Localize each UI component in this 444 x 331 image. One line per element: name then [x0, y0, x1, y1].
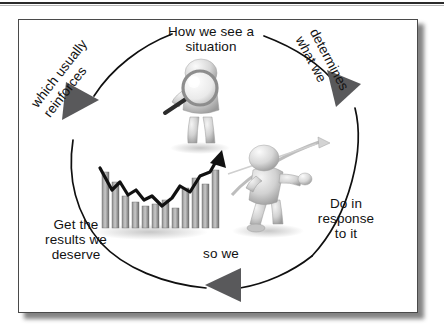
slide-canvas: How we see a situation determines what w…: [0, 0, 444, 331]
magnifier-figure: [165, 59, 230, 154]
bar-6: [152, 204, 159, 228]
bar-5: [142, 206, 149, 228]
magnifier-lens: [183, 71, 217, 105]
archer-figure-shadow: [232, 224, 304, 238]
bar-11: [202, 184, 209, 228]
archer-hand: [298, 173, 312, 185]
bar-12: [212, 170, 219, 228]
archer-bow-tip: [318, 137, 330, 148]
label-how-we-see-a-situation: How we see a situation: [146, 24, 276, 54]
bar-9: [182, 188, 189, 228]
bar-4: [132, 202, 139, 228]
label-so-we: so we: [176, 246, 266, 261]
archer-foot: [247, 224, 265, 232]
archer-head: [249, 145, 279, 171]
magnifier-lens-highlight: [188, 76, 200, 88]
arrowhead-bottom: [205, 268, 241, 302]
magnifier-figure-leg-right: [203, 117, 215, 143]
bar-8: [172, 208, 179, 228]
magnifier-figure-leg-left: [188, 117, 199, 143]
label-do-in-response-to-it: Do in response to it: [300, 196, 392, 241]
label-get-the-results-we-deserve: Get the results we deserve: [22, 217, 130, 262]
